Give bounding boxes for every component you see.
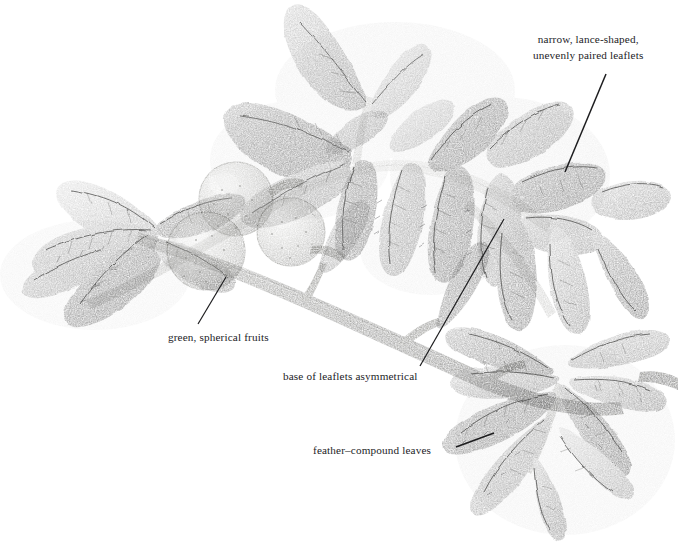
botanical-illustration-plate: narrow, lance-shaped, unevenly paired le… (0, 0, 678, 545)
fruit-right (257, 198, 325, 266)
annotation-base-of-leaflets-asymmetrical: base of leaflets asymmetrical (283, 369, 418, 384)
drawing-layer (0, 0, 678, 545)
annotation-line-2: unevenly paired leaflets (533, 48, 643, 64)
fruit-lower-left (167, 212, 245, 290)
annotation-feather-compound-leaves: feather–compound leaves (313, 443, 431, 458)
annotation-line-1: green, spherical fruits (168, 330, 269, 345)
leaf-cluster-upper-right (326, 97, 671, 334)
annotation-line-1: narrow, lance-shaped, (533, 32, 643, 48)
annotation-line-1: feather–compound leaves (313, 443, 431, 458)
annotation-narrow-lance-shaped-leaflets: narrow, lance-shaped, unevenly paired le… (533, 32, 643, 63)
annotation-line-1: base of leaflets asymmetrical (283, 369, 418, 384)
annotation-green-spherical-fruits: green, spherical fruits (168, 330, 269, 345)
